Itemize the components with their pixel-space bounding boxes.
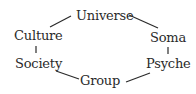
node-culture: Culture	[14, 29, 63, 43]
node-group: Group	[80, 74, 120, 88]
edge-society-group	[56, 71, 79, 79]
node-universe: Universe	[76, 9, 134, 23]
node-society: Society	[15, 57, 62, 71]
cycle-diagram: Universe Soma Psyche Group Society Cultu…	[0, 0, 196, 94]
edge-culture-universe	[50, 16, 71, 27]
node-psyche: Psyche	[146, 57, 191, 71]
edge-group-psyche	[126, 73, 150, 82]
node-soma: Soma	[150, 31, 186, 45]
